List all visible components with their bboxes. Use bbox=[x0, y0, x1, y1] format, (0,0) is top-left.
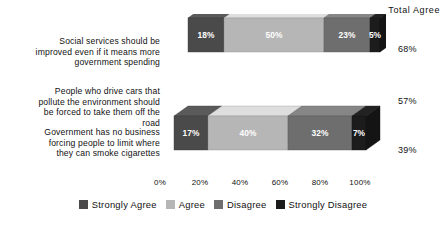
legend-item-3[interactable]: Strongly Disagree bbox=[276, 199, 368, 210]
legend-swatch-icon bbox=[276, 200, 285, 209]
x-tick-label-100: 100% bbox=[349, 178, 370, 187]
legend-swatch-icon bbox=[166, 200, 175, 209]
segment-value-label: 32% bbox=[312, 128, 329, 138]
total-agree-value-2: 39% bbox=[398, 145, 417, 155]
category-label-line: forcing people to limit where bbox=[0, 138, 160, 149]
segment-value-label: 50% bbox=[266, 30, 283, 40]
segment-value-label: 18% bbox=[198, 30, 215, 40]
category-label-line: Government has no business bbox=[0, 127, 160, 138]
category-label-line: People who drive cars that bbox=[0, 86, 160, 97]
category-label-line: pollute the environment should bbox=[0, 97, 160, 108]
bar-segment-top-face bbox=[208, 106, 302, 116]
x-tick-label-40: 40% bbox=[232, 178, 249, 187]
x-tick-label-60: 60% bbox=[272, 178, 289, 187]
segment-value-label: 23% bbox=[339, 30, 356, 40]
x-tick-label-0: 0% bbox=[154, 178, 166, 187]
bar-row-0: 18%50%23%5% bbox=[188, 14, 386, 52]
legend-label: Strongly Disagree bbox=[289, 199, 368, 210]
category-label-0: Social services should beimproved even i… bbox=[0, 36, 160, 68]
legend-label: Agree bbox=[179, 199, 205, 210]
category-labels-column: Social services should beimproved even i… bbox=[0, 0, 160, 190]
legend-item-1[interactable]: Agree bbox=[166, 199, 205, 210]
category-label-line: they can smoke cigarettes bbox=[0, 148, 160, 159]
segment-value-label: 40% bbox=[240, 128, 257, 138]
bar-segment-top-face bbox=[224, 14, 338, 18]
segment-value-label: 17% bbox=[183, 128, 200, 138]
category-label-line: government spending bbox=[0, 57, 160, 68]
legend-swatch-icon bbox=[79, 200, 88, 209]
total-agree-value-1: 57% bbox=[398, 96, 417, 106]
category-label-line: improved even if it means more bbox=[0, 47, 160, 58]
stacked-bar-chart-svg: 18%50%23%5%17%40%32%7%13%26%43%17% bbox=[148, 14, 386, 186]
category-label-1: People who drive cars thatpollute the en… bbox=[0, 86, 160, 128]
legend-item-2[interactable]: Disagree bbox=[214, 199, 267, 210]
legend-swatch-icon bbox=[214, 200, 223, 209]
segment-value-label: 7% bbox=[353, 128, 366, 138]
chart-legend: Strongly AgreeAgreeDisagreeStrongly Disa… bbox=[0, 199, 446, 210]
category-label-line: be forced to take them off the bbox=[0, 107, 160, 118]
legend-item-0[interactable]: Strongly Agree bbox=[79, 199, 157, 210]
x-tick-label-20: 20% bbox=[192, 178, 209, 187]
bar-row-1: 17%40%32%7% bbox=[174, 106, 380, 150]
x-axis-tick-labels: 0%20%40%60%80%100% bbox=[148, 178, 398, 192]
total-agree-header: Total Agree bbox=[388, 5, 440, 15]
legend-label: Disagree bbox=[227, 199, 267, 210]
total-agree-value-0: 68% bbox=[398, 44, 417, 54]
chart-plot-area: 18%50%23%5%17%40%32%7%13%26%43%17% bbox=[148, 14, 386, 186]
category-label-2: Government has no businessforcing people… bbox=[0, 127, 160, 159]
category-label-line: Social services should be bbox=[0, 36, 160, 47]
x-tick-label-80: 80% bbox=[312, 178, 329, 187]
segment-value-label: 5% bbox=[369, 30, 382, 40]
legend-label: Strongly Agree bbox=[92, 199, 157, 210]
